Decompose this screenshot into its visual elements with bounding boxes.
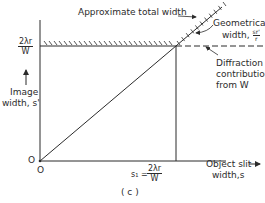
x-tick-denominator: W <box>147 174 162 183</box>
y-axis-label-line2: width, s' <box>2 98 40 108</box>
y-tick-numerator: 2λr <box>18 37 33 47</box>
hatch-mark <box>109 41 112 45</box>
x-axis-label-line2: width,s <box>212 170 244 180</box>
hatch-mark <box>114 41 117 45</box>
hatch-mark <box>59 41 62 45</box>
y-origin-label: O <box>28 155 35 165</box>
hatch-mark <box>124 41 127 45</box>
hatch-mark <box>94 41 97 45</box>
geometrical-width-text: width, <box>222 30 250 40</box>
x-tick-label: 2λr W <box>147 164 162 183</box>
hatch-mark <box>79 41 82 45</box>
geometrical-width-label-line1: Geometrical <box>213 18 265 28</box>
diffraction-pointer <box>206 47 218 55</box>
hatch-mark <box>144 41 147 45</box>
hatch-mark <box>154 41 157 45</box>
hatch-mark <box>104 41 107 45</box>
hatch-mark <box>119 41 122 45</box>
hatch-mark <box>74 41 77 45</box>
hatch-mark <box>139 41 142 45</box>
figure-caption: ( c ) <box>121 187 139 197</box>
y-tick-denominator: W <box>18 47 33 56</box>
diffraction-label-line2: contribution <box>216 69 265 79</box>
geometrical-frac-denominator: r <box>253 36 260 42</box>
y-axis-label-line1: Image <box>10 87 38 97</box>
geometrical-width-label-line2: width, sr' r <box>222 29 260 42</box>
hatch-mark <box>54 41 57 45</box>
total-width-hatching-horizontal <box>44 41 172 45</box>
x-axis-label-line1: Object slit <box>206 159 251 169</box>
hatch-mark <box>159 41 162 45</box>
diffraction-label-line3: from W <box>216 80 249 90</box>
hatch-mark <box>49 41 52 45</box>
y-tick-label: 2λr W <box>18 37 33 56</box>
x-tick-numerator: 2λr <box>147 164 162 174</box>
diffraction-label-line1: Diffraction <box>216 58 263 68</box>
hatch-mark <box>89 41 92 45</box>
hatch-mark <box>64 41 67 45</box>
hatch-mark <box>223 2 226 6</box>
total-width-label: Approximate total width <box>78 7 187 17</box>
geometrical-width-line <box>40 7 222 161</box>
hatch-mark <box>69 41 72 45</box>
hatch-mark <box>44 41 47 45</box>
hatch-mark <box>164 41 167 45</box>
hatch-mark <box>84 41 87 45</box>
geometrical-width-fraction: sr' r <box>253 29 260 42</box>
hatch-mark <box>99 41 102 45</box>
hatch-mark <box>134 41 137 45</box>
hatch-mark <box>149 41 152 45</box>
hatch-mark <box>169 41 172 45</box>
x-origin-label: O <box>37 165 44 175</box>
hatch-mark <box>129 41 132 45</box>
x-tick-label-prefix: s₁ = <box>131 170 148 180</box>
